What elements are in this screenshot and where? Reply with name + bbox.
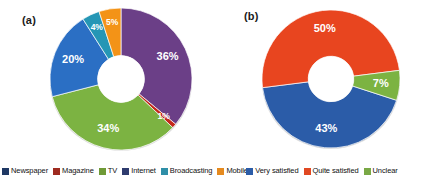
legend-b-swatch-icon	[364, 168, 371, 175]
panel-b-label: (b)	[244, 10, 259, 22]
legend-b-item-label: Unclear	[373, 167, 398, 175]
legend-a-swatch-icon	[2, 168, 9, 175]
panel-a-label: (a)	[22, 14, 36, 26]
legend-a-item-label: Broadcasting	[170, 167, 213, 175]
legend-a-swatch-icon	[99, 168, 106, 175]
legend-a-item-internet[interactable]: Internet	[122, 167, 156, 175]
legend-a-swatch-icon	[53, 168, 60, 175]
donut-a-label-newspaper: 36%	[157, 50, 179, 62]
donut-a-label-tv: 34%	[97, 122, 119, 134]
figure-root: (a) 36%1%34%20%4%5% (b) 43%50%7% Newspap…	[0, 0, 428, 184]
legend-a-item-newspaper[interactable]: Newspaper	[2, 167, 48, 175]
panel-b: (b) 43%50%7%	[214, 0, 428, 158]
donut-a-label-magazine: 1%	[157, 111, 170, 121]
legend-a-swatch-icon	[161, 168, 168, 175]
legend-b-item-label: Quite satisfied	[313, 167, 359, 175]
donut-a-label-mobile: 5%	[106, 17, 119, 27]
legend-b-item-quite-satisfied[interactable]: Quite satisfied	[304, 167, 359, 175]
panel-a: (a) 36%1%34%20%4%5%	[0, 0, 214, 158]
legend-chart-b: Very satisfiedQuite satisfiedUnclear	[216, 158, 428, 184]
legend-b-item-unclear[interactable]: Unclear	[364, 167, 398, 175]
legend-a-item-label: TV	[108, 167, 117, 175]
donut-chart-a: 36%1%34%20%4%5%	[48, 6, 194, 152]
legend-a-item-magazine[interactable]: Magazine	[53, 167, 94, 175]
legend-bar: NewspaperMagazineTVInternetBroadcastingM…	[0, 158, 428, 184]
donut-a-center-hole	[98, 56, 145, 103]
legend-a-item-tv[interactable]: TV	[99, 167, 117, 175]
donut-a-svg: 36%1%34%20%4%5%	[48, 6, 194, 152]
legend-a-item-label: Newspaper	[11, 167, 48, 175]
legend-a-swatch-icon	[122, 168, 129, 175]
donut-chart-b: 43%50%7%	[260, 8, 402, 150]
chart-panels: (a) 36%1%34%20%4%5% (b) 43%50%7%	[0, 0, 428, 158]
legend-a-item-label: Internet	[131, 167, 156, 175]
donut-a-label-broadcasting: 4%	[91, 22, 104, 32]
donut-b-label-quite-satisfied: 50%	[314, 22, 336, 34]
legend-chart-a: NewspaperMagazineTVInternetBroadcastingM…	[0, 158, 216, 184]
legend-b-item-label: Very satisfied	[255, 167, 298, 175]
donut-b-label-unclear: 7%	[373, 77, 389, 89]
legend-b-swatch-icon	[304, 168, 311, 175]
legend-b-swatch-icon	[246, 168, 253, 175]
donut-b-label-very-satisfied: 43%	[315, 122, 337, 134]
donut-b-center-hole	[308, 56, 354, 102]
legend-b-item-very-satisfied[interactable]: Very satisfied	[246, 167, 298, 175]
legend-a-item-label: Magazine	[62, 167, 94, 175]
legend-a-item-broadcasting[interactable]: Broadcasting	[161, 167, 213, 175]
donut-b-svg: 43%50%7%	[260, 8, 402, 150]
donut-a-label-internet: 20%	[62, 53, 84, 65]
